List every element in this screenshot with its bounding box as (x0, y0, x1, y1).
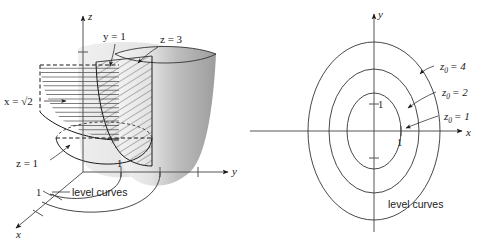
contour-leaders (406, 66, 438, 128)
x-axis (16, 172, 83, 228)
z-axis-label: z (87, 10, 93, 22)
svg-text:z0= 4: z0= 4 (439, 60, 466, 75)
contour-1-sub: 0 (448, 116, 452, 125)
y-tick-one-label: 1 (117, 158, 122, 169)
contour-label-z0-2: z0= 2 (441, 86, 468, 101)
svg-text:z0= 1: z0= 1 (443, 110, 470, 125)
svg-text:z0= 2: z0= 2 (441, 86, 468, 101)
contour-1-eq: = 1 (454, 110, 470, 122)
contour-2-sub: 0 (446, 92, 450, 101)
contour-label-z0-1: z0= 1 (443, 110, 470, 125)
contour-2-eq: = 2 (452, 86, 468, 98)
level-curves-svg: z0= 4 z0= 2 z0= 1 x y 1 1 level curves (240, 0, 480, 242)
leader-contour-z0-1 (406, 116, 438, 128)
contour-label-z0-4: z0= 4 (439, 60, 466, 75)
contour-4-sub: 0 (444, 66, 448, 75)
level-curves-label-right: level curves (388, 198, 443, 210)
y-unit-label: 1 (378, 99, 383, 110)
y-axis-label-2d: y (377, 8, 383, 20)
x-axis-label: x (15, 228, 21, 240)
surface-3d-panel: z y x y = 1 z = 3 x = √2 z = 1 1 1 level… (0, 0, 240, 242)
level-top-label: z = 3 (160, 33, 183, 45)
y-axis-label: y (231, 165, 237, 177)
x-axis-label-2d: x (465, 126, 471, 138)
contour-4-eq: = 4 (450, 60, 466, 72)
surface-3d-svg: z y x y = 1 z = 3 x = √2 z = 1 1 1 level… (0, 0, 240, 242)
level-curves-label-left: level curves (72, 186, 127, 198)
leader-contour-z0-2 (408, 92, 436, 108)
x-unit-label: 1 (397, 137, 402, 148)
x-tick-one-label: 1 (36, 187, 41, 198)
plane-x-label: x = √2 (4, 95, 33, 107)
plane-y-label: y = 1 (103, 30, 126, 42)
level-bottom-label: z = 1 (16, 157, 38, 169)
level-curves-panel: z0= 4 z0= 2 z0= 1 x y 1 1 level curves (240, 0, 480, 242)
figure-root: z y x y = 1 z = 3 x = √2 z = 1 1 1 level… (0, 0, 480, 242)
